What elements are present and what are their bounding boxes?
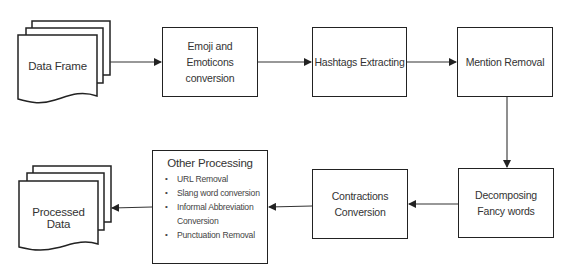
edge-other-to-processed xyxy=(112,207,152,208)
other-processing-item: URL Removal xyxy=(167,172,267,186)
other-processing-item: Slang word conversion xyxy=(167,186,267,200)
emoji-conversion-box: Emoji and Emoticons conversion xyxy=(162,27,258,97)
other-processing-list: URL Removal Slang word conversion Inform… xyxy=(153,172,267,242)
contractions-conversion-box: Contractions Conversion xyxy=(312,169,408,239)
mention-removal-box: Mention Removal xyxy=(457,27,553,97)
data-frame-label: Data Frame xyxy=(18,60,97,72)
contractions-conversion-label: Contractions Conversion xyxy=(313,188,407,220)
mention-removal-label: Mention Removal xyxy=(466,54,545,70)
decomposing-fancy-words-box: Decomposing Fancy words xyxy=(458,168,554,238)
emoji-conversion-label: Emoji and Emoticons conversion xyxy=(163,38,257,86)
other-processing-item: Punctuation Removal xyxy=(167,228,267,242)
edge-contractions-to-other xyxy=(269,206,312,207)
other-processing-box: Other Processing URL Removal Slang word … xyxy=(152,150,268,264)
decomposing-fancy-words-label: Decomposing Fancy words xyxy=(459,187,553,219)
hashtags-extracting-label: Hashtags Extracting xyxy=(314,54,404,70)
other-processing-item: Informal Abbreviation Conversion xyxy=(167,200,267,228)
other-processing-title: Other Processing xyxy=(153,157,267,169)
processed-data-label: Processed Data xyxy=(19,206,98,230)
hashtags-extracting-box: Hashtags Extracting xyxy=(312,27,407,97)
